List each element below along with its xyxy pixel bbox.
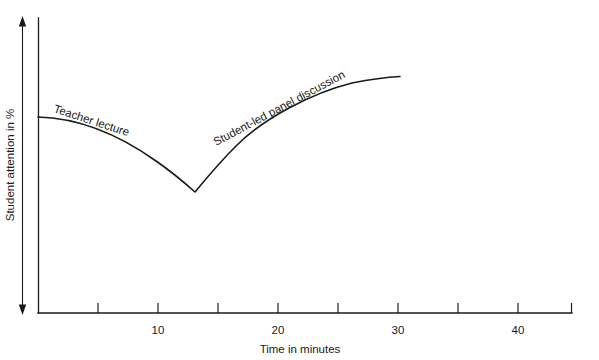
- x-tick-label-40: 40: [512, 324, 525, 336]
- x-tick-label-10: 10: [152, 324, 165, 336]
- y-axis-title: Student attention in %: [4, 109, 16, 222]
- x-tick-label-20: 20: [272, 324, 285, 336]
- y-axis-arrow-head-down: [19, 305, 26, 316]
- y-axis-arrow: [19, 16, 26, 315]
- y-axis-arrow-head-up: [19, 16, 26, 27]
- x-axis-title: Time in minutes: [260, 343, 341, 355]
- x-tick-label-30: 30: [392, 324, 405, 336]
- attention-curve-chart: Student attention in % 10 20 30 40 Time …: [0, 0, 599, 360]
- chart-canvas: Student attention in % 10 20 30 40 Time …: [0, 0, 599, 360]
- x-axis-ticks: [98, 303, 518, 313]
- curve-label-panel-discussion: Student-led panel discussion: [211, 68, 346, 148]
